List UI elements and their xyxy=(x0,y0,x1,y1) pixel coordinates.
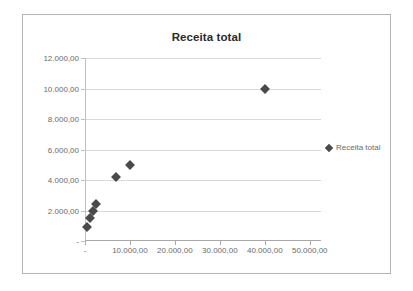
x-axis-tick-label: 40.000,00 xyxy=(247,246,283,255)
chart-frame: Receita total -2.000,004.000,006.000,008… xyxy=(22,14,391,274)
x-axis-tick-label: 30.000,00 xyxy=(202,246,238,255)
screenshot-root: Receita total -2.000,004.000,006.000,008… xyxy=(0,0,413,291)
x-axis-tick xyxy=(265,241,266,245)
x-axis-tick-label: 50.000,00 xyxy=(292,246,328,255)
data-point-marker xyxy=(125,160,135,170)
y-axis-tick-label: 8.000,00 xyxy=(48,115,79,124)
x-axis-tick-label: 20.000,00 xyxy=(157,246,193,255)
y-axis-tick-label: - xyxy=(76,237,79,246)
y-axis-tick-label: 6.000,00 xyxy=(48,145,79,154)
legend-diamond-icon xyxy=(325,143,333,151)
x-axis-tick xyxy=(220,241,221,245)
data-point-marker xyxy=(260,84,270,94)
chart-legend: Receita total xyxy=(326,143,380,152)
plot-area: -2.000,004.000,006.000,008.000,0010.000,… xyxy=(85,58,321,241)
x-axis-tick xyxy=(310,241,311,245)
gridline xyxy=(85,119,321,120)
x-axis-tick xyxy=(175,241,176,245)
gridline xyxy=(85,89,321,90)
gridline xyxy=(85,180,321,181)
y-axis-tick-label: 10.000,00 xyxy=(43,84,79,93)
y-axis-tick-label: 2.000,00 xyxy=(48,206,79,215)
x-axis-tick xyxy=(85,241,86,245)
y-axis-tick-label: 12.000,00 xyxy=(43,54,79,63)
y-axis-tick-label: 4.000,00 xyxy=(48,176,79,185)
x-axis-tick-label: - xyxy=(84,246,87,255)
x-axis-line xyxy=(85,240,321,241)
x-axis-tick xyxy=(130,241,131,245)
data-point-marker xyxy=(82,222,92,232)
legend-label: Receita total xyxy=(336,143,380,152)
gridline xyxy=(85,150,321,151)
gridline xyxy=(85,211,321,212)
gridline xyxy=(85,58,321,59)
chart-title: Receita total xyxy=(23,31,390,43)
y-axis-line xyxy=(85,58,86,241)
x-axis-tick-label: 10.000,00 xyxy=(112,246,148,255)
